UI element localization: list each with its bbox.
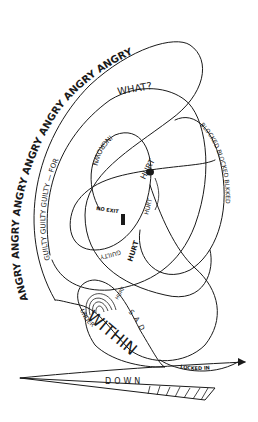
guilty-lower-text: GUILTY [99, 249, 122, 261]
ingrown-loop-line [70, 133, 215, 250]
ingrown-text: INGROWN [91, 133, 114, 166]
descending-line [55, 185, 217, 361]
down-text: DOWN [105, 377, 143, 386]
no-exit-text: NO EXIT [96, 205, 120, 214]
drawing-svg: ANGRY ANGRY ANGRY ANGRY ANGRY ANGRY ANGR… [0, 0, 258, 422]
no-exit-wall [121, 214, 125, 225]
down-wedge-hatching [148, 386, 208, 400]
locked-in-arrow-line [20, 362, 245, 378]
center-hatch [155, 178, 159, 210]
angry-loop-line [34, 42, 211, 300]
arrowhead-icon [238, 358, 246, 366]
what-text: WHAT? [116, 80, 152, 97]
hurt-lower-text: HURT [126, 240, 140, 263]
sad-text: SAD [127, 308, 148, 335]
emotion-spiral-drawing: ANGRY ANGRY ANGRY ANGRY ANGRY ANGRY ANGR… [0, 0, 258, 422]
hurt-mid-text: HURT [142, 197, 153, 215]
guilty-text: GUILTY GUILTY GUILTY — FOR [39, 157, 60, 261]
angry-text: ANGRY ANGRY ANGRY ANGRY ANGRY ANGRY ANGR… [9, 45, 134, 302]
